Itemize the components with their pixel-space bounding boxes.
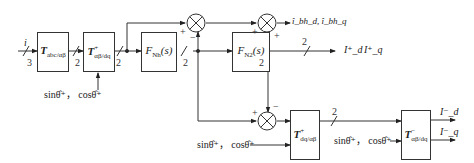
bus-width-5: 2	[302, 37, 307, 47]
negative-q-output: I⁻_q	[440, 127, 459, 137]
sum2-plus-sign-left: +	[252, 27, 258, 37]
bus-width-4: 2	[259, 58, 264, 68]
sum3-minus-sign: −	[273, 102, 279, 112]
bus-width-2: 2	[116, 58, 121, 68]
block-t-dq-alphabeta: T+dq/αβ	[290, 110, 320, 160]
angle-input-2: sinθ̂⁺， cosθ̂⁺	[197, 140, 255, 150]
sum3-plus-sign: +	[252, 108, 258, 118]
block-fn2-filter: FN2(s)	[232, 32, 270, 72]
block-t-abc-alphabeta: Tabc/αβ	[37, 32, 69, 72]
bus-width-6: 2	[332, 107, 337, 117]
input-current-label: i	[24, 38, 27, 48]
block-t-alphabeta-dq-positive: T+αβ/dq	[83, 32, 115, 72]
bus-width-1: 2	[75, 58, 80, 68]
harmonic-output-label: î_bh_d, î_bh_q	[292, 17, 347, 26]
sum2-plus-sign-bottom: +	[274, 31, 280, 41]
sum1-plus-sign: +	[180, 27, 186, 37]
block-fnh-filter: FNh(s)	[141, 32, 177, 72]
sum1-minus-sign: −	[190, 33, 196, 43]
angle-input-1: sinθ̂⁺， cosθ̂⁺	[44, 90, 102, 100]
block-t-alphabeta-dq-negative: T−αβ/dq	[401, 110, 431, 160]
input-width-label: 3	[27, 58, 32, 68]
bus-width-3: 2	[183, 58, 188, 68]
positive-q-output: I⁺_q	[364, 45, 383, 55]
positive-d-output: I⁺_d	[344, 45, 363, 55]
angle-input-3: sinθ̂⁺， cosθ̂⁺	[334, 136, 392, 146]
negative-d-output: I⁻_d	[440, 107, 459, 117]
